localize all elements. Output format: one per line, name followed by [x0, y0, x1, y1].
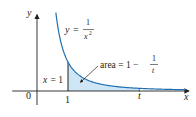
curve-equation-label: y = 1 x 2 — [64, 18, 94, 41]
svg-text:area = 1 −: area = 1 − — [100, 60, 138, 70]
svg-text:=: = — [73, 24, 79, 35]
area-pointer-arrow — [80, 66, 98, 82]
svg-text:t: t — [152, 66, 155, 75]
origin-label: 0 — [26, 90, 31, 101]
tick-label-1: 1 — [65, 94, 70, 105]
y-axis-label: y — [26, 7, 32, 18]
vertical-line-label: x = 1 — [42, 75, 63, 85]
svg-text:y: y — [64, 24, 70, 35]
svg-text:1: 1 — [86, 18, 90, 27]
area-label: area = 1 − 1 t — [100, 54, 158, 75]
tick-label-t: t — [138, 90, 141, 101]
svg-text:1: 1 — [152, 54, 156, 63]
area-under-curve-diagram: y x 0 1 t y = 1 x 2 x = 1 area = 1 − 1 t — [0, 0, 196, 117]
x-axis-label: x — [183, 91, 189, 102]
svg-text:x: x — [83, 32, 88, 41]
svg-text:2: 2 — [89, 30, 92, 36]
